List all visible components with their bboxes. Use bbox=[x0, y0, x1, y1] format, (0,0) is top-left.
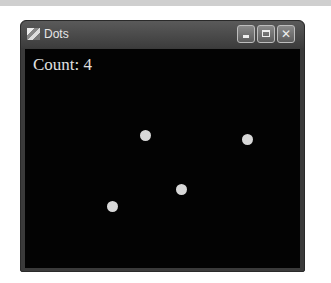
dots-window: Dots ✕ Count: 4 bbox=[20, 20, 305, 272]
dot bbox=[107, 201, 118, 212]
dot bbox=[176, 184, 187, 195]
dots-canvas[interactable]: Count: 4 bbox=[25, 49, 300, 268]
app-icon bbox=[27, 28, 40, 40]
maximize-icon bbox=[262, 30, 270, 37]
minimize-button[interactable] bbox=[237, 25, 255, 43]
window-title: Dots bbox=[44, 27, 69, 41]
close-icon: ✕ bbox=[281, 27, 291, 41]
background-strip bbox=[0, 0, 331, 6]
dot bbox=[242, 134, 253, 145]
minimize-icon bbox=[243, 35, 249, 38]
maximize-button[interactable] bbox=[257, 25, 275, 43]
count-label: Count: 4 bbox=[33, 55, 92, 75]
close-button[interactable]: ✕ bbox=[277, 25, 295, 43]
dot bbox=[140, 130, 151, 141]
title-bar[interactable]: Dots ✕ bbox=[21, 21, 304, 48]
